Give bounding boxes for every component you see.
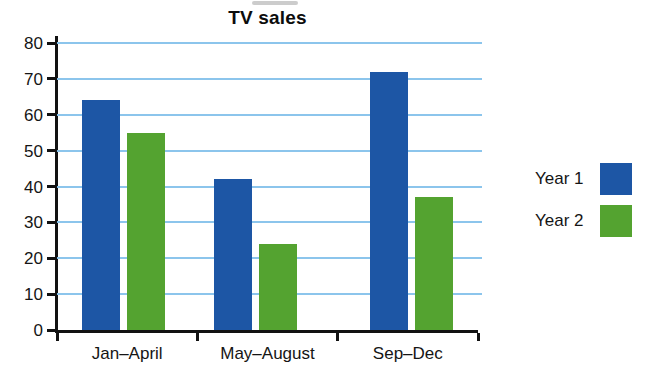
y-tick-70: [47, 77, 55, 80]
y-tick-0: [47, 329, 55, 332]
y-tick-80: [47, 42, 55, 45]
y-axis-ticks: [47, 43, 55, 330]
y-tick-label-70: 70: [24, 70, 43, 87]
category-group-jan-april: [57, 43, 189, 330]
y-tick-10: [47, 293, 55, 296]
y-tick-label-80: 80: [24, 35, 43, 52]
category-group-may-august: [189, 43, 321, 330]
y-tick-label-40: 40: [24, 178, 43, 195]
legend-label-year-1: Year 1: [535, 169, 587, 189]
x-tick-label-sep-dec: Sep–Dec: [338, 344, 478, 364]
category-groups: [57, 43, 478, 330]
x-tick-3: [477, 333, 480, 341]
legend: Year 1Year 2: [535, 163, 632, 237]
y-tick-label-10: 10: [24, 286, 43, 303]
x-tick-1: [196, 333, 199, 341]
x-axis-labels: Jan–AprilMay–AugustSep–Dec: [57, 344, 478, 364]
y-tick-label-30: 30: [24, 214, 43, 231]
y-tick-label-60: 60: [24, 106, 43, 123]
legend-swatch-year-2: [600, 205, 632, 237]
legend-item-year-2: Year 2: [535, 205, 632, 237]
bar-year-2-may-august: [259, 244, 297, 330]
scan-artifact: [252, 1, 298, 5]
legend-label-year-2: Year 2: [535, 211, 587, 231]
legend-swatch-year-1: [600, 163, 632, 195]
y-tick-label-20: 20: [24, 250, 43, 267]
x-tick-label-jan-april: Jan–April: [57, 344, 197, 364]
x-axis-ticks: [57, 333, 478, 341]
category-group-sep-dec: [322, 43, 478, 330]
chart-title: TV sales: [57, 7, 478, 29]
y-tick-50: [47, 149, 55, 152]
tv-sales-bar-chart: TV sales 01020304050607080 Jan–AprilMay–…: [0, 0, 658, 386]
y-tick-60: [47, 113, 55, 116]
y-tick-40: [47, 185, 55, 188]
legend-item-year-1: Year 1: [535, 163, 632, 195]
y-tick-label-0: 0: [34, 322, 43, 339]
x-tick-label-may-august: May–August: [197, 344, 337, 364]
y-axis-labels: 01020304050607080: [0, 43, 45, 330]
bar-year-2-jan-april: [127, 133, 165, 330]
bar-year-2-sep-dec: [415, 197, 453, 330]
plot-area: [57, 43, 478, 330]
y-tick-20: [47, 257, 55, 260]
y-tick-30: [47, 221, 55, 224]
y-tick-label-50: 50: [24, 142, 43, 159]
bar-year-1-may-august: [214, 179, 252, 330]
bar-year-1-jan-april: [82, 100, 120, 330]
x-tick-2: [336, 333, 339, 341]
x-tick-0: [56, 333, 59, 341]
bar-year-1-sep-dec: [370, 72, 408, 330]
